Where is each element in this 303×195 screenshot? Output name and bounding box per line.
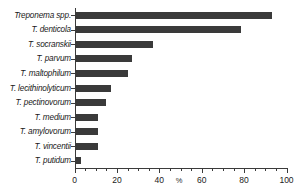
y-axis-category-label: T. lecithinolyticum (3, 84, 71, 93)
x-axis-minor-tick (212, 168, 213, 171)
x-axis-minor-tick (265, 168, 266, 171)
plot-area (75, 8, 287, 168)
x-axis-minor-tick (106, 168, 107, 171)
x-axis-minor-tick (170, 168, 171, 171)
x-axis-major-tick (244, 168, 245, 173)
x-axis-minor-tick (255, 168, 256, 171)
x-axis-minor-tick (138, 168, 139, 171)
y-axis-tick (71, 132, 75, 133)
x-axis-major-tick (159, 168, 160, 173)
x-axis-title: % (171, 176, 187, 185)
y-axis-category-label: T. vincentii (3, 142, 71, 151)
y-axis-tick (71, 30, 75, 31)
y-axis-tick (71, 15, 75, 16)
y-axis-category-labels: Treponema spp.T. denticolaT. socranskiiT… (0, 8, 71, 168)
x-axis-major-tick (117, 168, 118, 173)
y-axis-tick (71, 44, 75, 45)
x-axis-tick-label: 0 (62, 175, 88, 185)
bar (75, 128, 98, 135)
x-axis-minor-tick (276, 168, 277, 171)
y-axis-category-label: T. medium (3, 113, 71, 122)
bar (75, 70, 128, 77)
x-axis-minor-tick (234, 168, 235, 171)
y-axis-category-label: T. denticola (3, 25, 71, 34)
y-axis-category-label: Treponema spp. (3, 11, 71, 20)
y-axis-tick (71, 146, 75, 147)
y-axis-category-label: T. pectinovorum (3, 98, 71, 107)
y-axis-tick (71, 88, 75, 89)
bar-chart-figure: Treponema spp.T. denticolaT. socranskiiT… (0, 0, 303, 195)
y-axis-category-label: T. putidum (3, 156, 71, 165)
y-axis-tick (71, 59, 75, 60)
x-axis-tick-label: 100 (274, 175, 300, 185)
x-axis-tick-label: 80 (231, 175, 257, 185)
bar (75, 99, 107, 106)
x-axis-tick-label: 40 (146, 175, 172, 185)
y-axis-category-label: T. socranskii (3, 40, 71, 49)
x-axis-minor-tick (85, 168, 86, 171)
y-axis-category-label: T. parvum (3, 54, 71, 63)
x-axis-major-tick (75, 168, 76, 173)
x-axis-major-tick (202, 168, 203, 173)
x-axis-tick-label: 60 (189, 175, 215, 185)
y-axis-tick (71, 73, 75, 74)
y-axis-tick (71, 161, 75, 162)
x-axis-tick-label: 20 (104, 175, 130, 185)
x-axis-minor-tick (96, 168, 97, 171)
y-axis-tick (71, 117, 75, 118)
x-axis-minor-tick (149, 168, 150, 171)
x-axis-minor-tick (223, 168, 224, 171)
bar (75, 157, 81, 164)
x-axis-minor-tick (191, 168, 192, 171)
y-axis-tick (71, 103, 75, 104)
bar (75, 26, 241, 33)
y-axis-category-label: T. maltophilum (3, 69, 71, 78)
x-axis-minor-tick (181, 168, 182, 171)
bar (75, 85, 111, 92)
x-axis-major-tick (287, 168, 288, 173)
bar (75, 55, 132, 62)
y-axis-category-label: T. amylovorum (3, 127, 71, 136)
bar (75, 12, 272, 19)
x-axis-minor-tick (128, 168, 129, 171)
bar (75, 143, 98, 150)
bar (75, 41, 153, 48)
bar (75, 114, 98, 121)
